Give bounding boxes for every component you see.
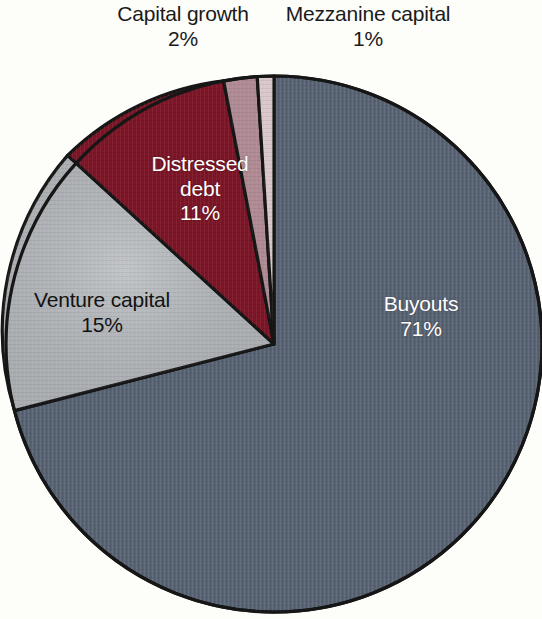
slice-label-distressed-debt-line2: debt [124,177,276,202]
slice-label-venture-capital-name: Venture capital [16,288,188,313]
slice-label-buyouts-name: Buyouts [356,292,486,317]
slice-label-capital-growth-percent: 2% [88,27,278,52]
slice-label-venture-capital-percent: 15% [16,313,188,338]
slice-label-distressed-debt-line1: Distressed [124,152,276,177]
slice-label-mezzanine-capital-name: Mezzanine capital [262,2,474,27]
slice-label-venture-capital: Venture capital 15% [16,288,188,337]
slice-label-buyouts-percent: 71% [356,317,486,342]
slice-label-buyouts: Buyouts 71% [356,292,486,341]
slice-label-distressed-debt-percent: 11% [124,201,276,226]
slice-label-mezzanine-capital-percent: 1% [262,27,474,52]
pie-chart: Capital growth 2% Mezzanine capital 1% B… [0,0,542,619]
slice-label-mezzanine-capital: Mezzanine capital 1% [262,2,474,51]
slice-label-capital-growth: Capital growth 2% [88,2,278,51]
slice-label-distressed-debt: Distressed debt 11% [124,152,276,226]
slice-label-capital-growth-name: Capital growth [88,2,278,27]
